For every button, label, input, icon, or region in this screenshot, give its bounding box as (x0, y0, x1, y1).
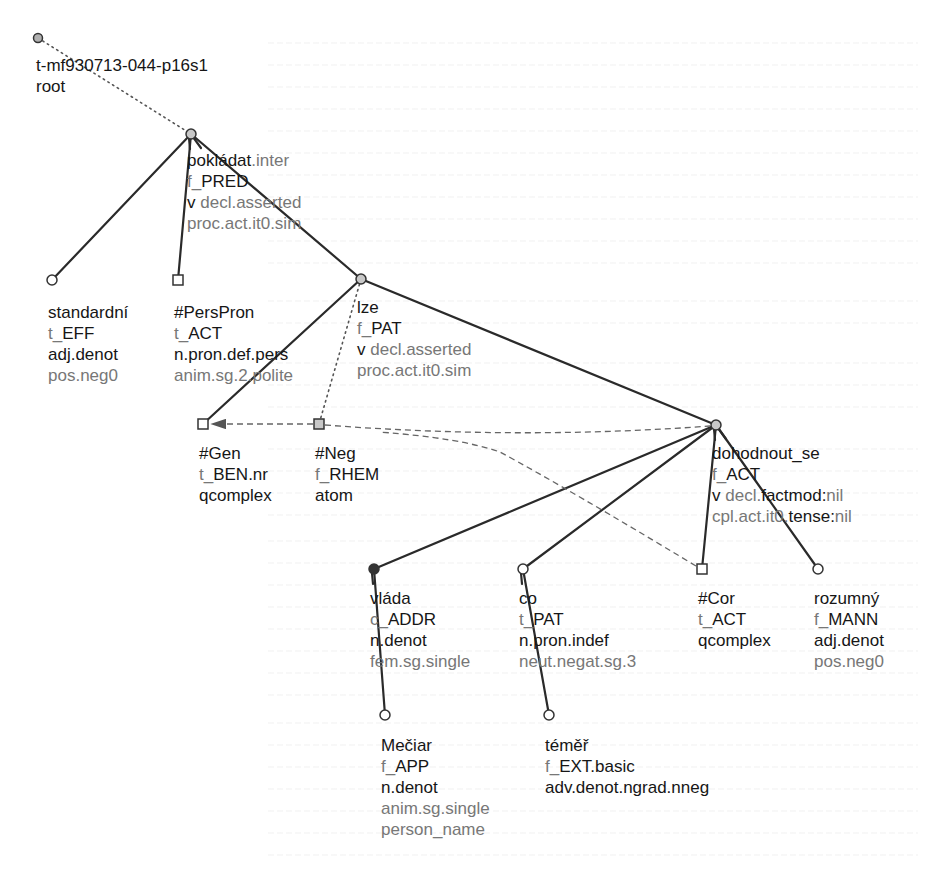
label-line: qcomplex (698, 630, 771, 651)
label-line: t-mf930713-044-p16s1 (36, 55, 208, 76)
label-segment: v (357, 340, 370, 359)
node-vlada-circle-icon[interactable] (369, 564, 379, 574)
label-line: dohodnout_se (712, 443, 852, 464)
label-segment: #PersPron (174, 303, 254, 322)
label-line: Mečiar (381, 735, 490, 756)
label-line: proc.act.it0.sim (187, 213, 301, 234)
label-line: f_MANN (814, 609, 884, 630)
label-segment: adj.denot (48, 345, 118, 364)
node-stem (189, 138, 190, 149)
label-line: anim.sg.single (381, 798, 490, 819)
edge-dohodnout-vlada (374, 425, 716, 569)
label-segment: factmod: (761, 486, 826, 505)
label-line: téměř (545, 735, 709, 756)
label-line: f_APP (381, 756, 490, 777)
label-segment: f_ (712, 465, 726, 484)
node-temer-circle-icon[interactable] (544, 710, 554, 720)
label-segment: anim.sg.single (381, 799, 490, 818)
label-segment: APP (395, 757, 429, 776)
label-line: #Cor (698, 588, 771, 609)
label-segment: n.denot (370, 631, 427, 650)
node-cor-square-icon[interactable] (697, 564, 707, 574)
node-co-circle-icon[interactable] (518, 564, 528, 574)
node-label-cor: #Cort_ACTqcomplex (698, 588, 771, 651)
label-line: t_ACT (698, 609, 771, 630)
node-perspron-square-icon[interactable] (173, 275, 183, 285)
label-line: f_RHEM (315, 464, 379, 485)
node-rozumny-circle-icon[interactable] (813, 564, 823, 574)
node-pokladat-circle-icon[interactable] (186, 129, 196, 139)
label-segment: EXT.basic (559, 757, 635, 776)
label-segment: person_name (381, 820, 485, 839)
node-stem (521, 573, 522, 584)
label-line: adv.denot.ngrad.nneg (545, 777, 709, 798)
label-segment: decl. (725, 486, 761, 505)
label-segment: ADDR (388, 610, 436, 629)
label-segment: RHEM (329, 465, 379, 484)
label-segment: ACT (188, 324, 222, 343)
node-label-temer: téměřf_EXT.basicadv.denot.ngrad.nneg (545, 735, 709, 798)
label-line: f_EXT.basic (545, 756, 709, 777)
label-line: pos.neg0 (48, 365, 128, 386)
label-segment: v (712, 486, 725, 505)
node-neg-square-icon[interactable] (314, 419, 324, 429)
label-segment: f_ (381, 757, 395, 776)
label-line: f_ACT (712, 464, 852, 485)
edge-pokladat-standardni (52, 134, 191, 280)
label-segment: c_ (370, 610, 388, 629)
label-segment: MANN (828, 610, 878, 629)
node-standardni-circle-icon[interactable] (47, 275, 57, 285)
label-segment: proc.act.it0.sim (187, 214, 301, 233)
label-line: v decl.asserted (187, 192, 301, 213)
label-segment: PAT (371, 319, 402, 338)
label-line: n.pron.def.pers (174, 344, 293, 365)
node-label-standardni: standardnít_EFFadj.denotpos.neg0 (48, 302, 128, 386)
label-segment: t_ (698, 610, 712, 629)
edge-dohodnout-co (523, 425, 716, 569)
node-label-pokladat: pokládat.interf_PREDv decl.assertedproc.… (187, 150, 301, 234)
label-line: n.denot (381, 777, 490, 798)
label-segment: qcomplex (698, 631, 771, 650)
label-line: pos.neg0 (814, 651, 884, 672)
label-segment: t_ (519, 610, 533, 629)
node-gen-square-icon[interactable] (198, 419, 208, 429)
node-label-dohodnout: dohodnout_sef_ACTv decl.factmod:nilcpl.a… (712, 443, 852, 527)
label-segment: standardní (48, 303, 128, 322)
node-lze-circle-icon[interactable] (356, 274, 366, 284)
label-line: lze (357, 297, 471, 318)
label-line: standardní (48, 302, 128, 323)
label-line: vláda (370, 588, 470, 609)
label-line: neut.negat.sg.3 (519, 651, 636, 672)
label-segment: atom (315, 486, 353, 505)
label-segment: #Gen (199, 444, 241, 463)
label-segment: téměř (545, 736, 588, 755)
label-line: qcomplex (199, 485, 272, 506)
node-meciar-circle-icon[interactable] (380, 710, 390, 720)
label-segment: f_ (814, 610, 828, 629)
label-segment: rozumný (814, 589, 879, 608)
label-line: pokládat.inter (187, 150, 301, 171)
label-line: v decl.factmod:nil (712, 485, 852, 506)
node-dohodnout-circle-icon[interactable] (711, 420, 721, 430)
label-segment: pos.neg0 (48, 366, 118, 385)
node-label-root: t-mf930713-044-p16s1root (36, 55, 208, 97)
label-segment: vláda (370, 589, 411, 608)
node-label-perspron: #PersPront_ACTn.pron.def.persanim.sg.2.p… (174, 302, 293, 386)
label-line: root (36, 76, 208, 97)
label-segment: lze (357, 298, 379, 317)
label-segment: t-mf930713-044-p16s1 (36, 56, 208, 75)
label-line: n.denot (370, 630, 470, 651)
label-segment: tense: (789, 507, 835, 526)
label-segment: Mečiar (381, 736, 432, 755)
label-segment: pokládat (187, 151, 251, 170)
label-line: adj.denot (814, 630, 884, 651)
label-segment: BEN.nr (213, 465, 268, 484)
node-root-circle-icon[interactable] (34, 34, 43, 43)
label-segment: dohodnout_se (712, 444, 820, 463)
label-segment: f_ (357, 319, 371, 338)
label-segment: adv.denot.ngrad.nneg (545, 778, 709, 797)
node-stem (372, 573, 373, 584)
label-segment: decl.asserted (200, 193, 301, 212)
label-line: co (519, 588, 636, 609)
node-stem (714, 429, 715, 440)
